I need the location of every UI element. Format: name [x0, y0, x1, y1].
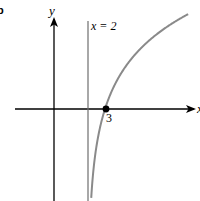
- x-axis-label: x: [196, 101, 200, 116]
- graph: b y x x = 2 3: [0, 0, 200, 201]
- asymptote-label: x = 2: [90, 19, 116, 33]
- y-axis-label: y: [47, 3, 55, 18]
- part-label: b: [0, 4, 4, 16]
- point-label: 3: [106, 111, 112, 125]
